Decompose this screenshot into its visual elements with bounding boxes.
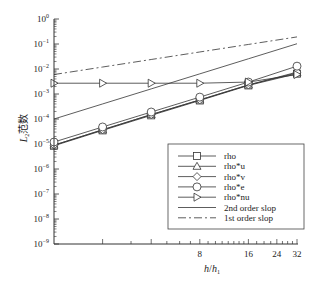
y-tick-label: 10−5 (34, 138, 49, 149)
y-tick-label: 10−8 (34, 213, 49, 224)
series-rho-e (50, 62, 301, 146)
circle-marker-icon (99, 123, 107, 131)
legend-label: 1st order slop (224, 213, 273, 223)
y-tick-label: 100 (37, 13, 49, 24)
circle-marker-icon (147, 108, 155, 116)
triangle-right-marker-icon (100, 79, 107, 87)
circle-marker-icon (193, 183, 201, 191)
triangle-right-marker-icon (197, 79, 204, 87)
x-axis-ticks: 8162432 (103, 239, 302, 259)
y-axis-label: L2范数 (17, 114, 30, 144)
x-tick-label: 32 (293, 249, 302, 259)
x-tick-label: 24 (272, 249, 282, 259)
square-marker-icon (194, 153, 201, 160)
series-rho-nu (51, 71, 301, 88)
legend-label: rho*e (224, 182, 245, 192)
triangle-right-marker-icon (148, 79, 155, 87)
x-axis-label: h/h1 (204, 263, 220, 275)
plot-series (50, 37, 301, 149)
y-tick-label: 10−1 (34, 38, 49, 49)
series-1st-order-slop (54, 37, 297, 75)
circle-marker-icon (293, 62, 301, 70)
legend-label: 2nd order slop (224, 203, 276, 213)
legend: rhorho*urho*vrho*erho*nu2nd order slop1s… (168, 144, 304, 229)
y-tick-label: 10−7 (34, 188, 49, 199)
x-tick-label: 16 (244, 249, 254, 259)
y-axis-ticks: 10010−110−210−310−410−510−610−710−810−9 (34, 13, 59, 249)
y-tick-label: 10−9 (34, 238, 49, 249)
svg-text:L2范数: L2范数 (17, 114, 30, 144)
y-tick-label: 10−4 (34, 113, 49, 124)
circle-marker-icon (196, 93, 204, 101)
legend-label: rho*v (224, 172, 245, 182)
y-tick-label: 10−6 (34, 163, 49, 174)
x-tick-label: 8 (198, 249, 203, 259)
legend-label: rho (224, 151, 236, 161)
series-rho (51, 70, 301, 149)
y-tick-label: 10−2 (34, 63, 49, 74)
convergence-chart: 10010−110−210−310−410−510−610−710−810−9 … (0, 0, 314, 281)
y-tick-label: 10−3 (34, 88, 49, 99)
legend-label: rho*u (224, 161, 245, 171)
legend-label: rho*nu (224, 192, 250, 202)
